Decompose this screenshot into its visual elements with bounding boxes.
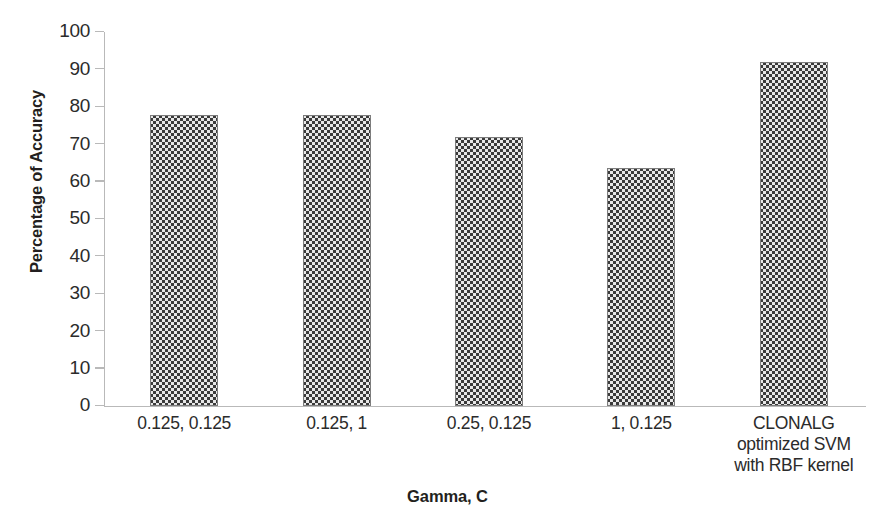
x-axis-tick-label: CLONALGoptimized SVMwith RBF kernel	[699, 413, 889, 476]
y-axis-tick-label: 60	[69, 171, 90, 190]
y-axis-tick: 50	[95, 218, 104, 219]
y-axis-tick: 40	[95, 255, 104, 256]
x-axis-tick-label-line: with RBF kernel	[699, 455, 889, 476]
x-axis-title: Gamma, C	[0, 487, 895, 506]
y-axis-tick: 10	[95, 367, 104, 368]
bar	[303, 115, 371, 406]
x-axis-tick-label-line: CLONALG	[699, 413, 889, 434]
y-axis-tick: 80	[95, 106, 104, 107]
y-axis-tick-label: 50	[69, 208, 90, 227]
y-axis-tick-label: 90	[69, 59, 90, 78]
y-axis-tick-label: 10	[69, 358, 90, 377]
y-axis-tick-label: 30	[69, 283, 90, 302]
y-axis-tick-label: 20	[69, 321, 90, 340]
y-axis-tick: 70	[95, 143, 104, 144]
bar	[455, 137, 523, 406]
y-axis-tick-label: 100	[59, 21, 90, 40]
y-axis-tick-label: 40	[69, 246, 90, 265]
y-axis-tick: 90	[95, 68, 104, 69]
y-axis-tick: 0	[95, 405, 104, 406]
plot-area: 1009080706050403020100	[104, 32, 866, 406]
y-axis-tick-label: 70	[69, 134, 90, 153]
bar-chart-figure: Percentage of Accuracy 10090807060504030…	[0, 0, 895, 529]
y-axis-title: Percentage of Accuracy	[27, 52, 46, 312]
bar	[607, 168, 675, 406]
bar	[760, 62, 828, 406]
bar	[150, 115, 218, 406]
y-axis-tick: 100	[95, 31, 104, 32]
y-axis-tick-label: 80	[69, 96, 90, 115]
x-axis-tick-label-line: optimized SVM	[699, 434, 889, 455]
y-axis-tick: 20	[95, 330, 104, 331]
y-axis-tick: 60	[95, 180, 104, 181]
y-axis-tick-label: 0	[80, 395, 90, 414]
y-axis-tick: 30	[95, 293, 104, 294]
